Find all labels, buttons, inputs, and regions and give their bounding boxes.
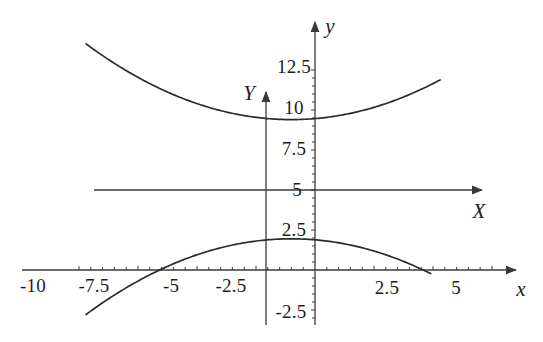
X-axis-name: X: [473, 201, 486, 222]
x-tick-label-5: 5: [451, 278, 461, 297]
primary-y-axis: [311, 22, 315, 325]
y-axis-name: y: [325, 16, 334, 37]
x-tick-label--10: -10: [20, 276, 46, 295]
primary-x-axis: [22, 266, 516, 270]
x-tick-label--5: -5: [163, 276, 179, 295]
y-tick-label--2.5: -2.5: [276, 302, 307, 321]
y-tick-label-2.5: 2.5: [282, 220, 306, 239]
y-tick-label-7.5: 7.5: [282, 139, 306, 158]
plot-figure: -10 -7.5 -5 -2.5 2.5 5 12.5 10 7.5 5 2.5…: [0, 0, 543, 342]
y-tick-label-10: 10: [284, 98, 303, 117]
upper-branch-curve: [86, 44, 440, 120]
x-tick-label--7.5: -7.5: [79, 276, 110, 295]
y-tick-label-12.5: 12.5: [277, 57, 311, 76]
y-tick-label-5: 5: [292, 180, 302, 199]
Y-axis-name: Y: [243, 83, 255, 104]
x-tick-label-2.5: 2.5: [375, 278, 399, 297]
x-axis-name: x: [516, 279, 525, 300]
x-tick-label--2.5: -2.5: [216, 276, 247, 295]
